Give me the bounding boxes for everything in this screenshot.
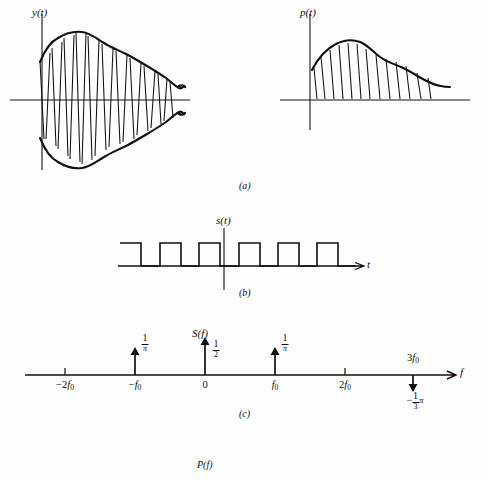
panel-caption-c: (c) — [239, 408, 250, 419]
amplitude-label-zero: 1 2 — [213, 339, 220, 359]
S-of-f-axis-label: S(f) — [192, 327, 208, 339]
tick-label-2f0: 2f0 — [339, 379, 351, 392]
plot-y-of-t — [10, 14, 190, 170]
amplitude-label-f0: 1 π — [282, 333, 289, 353]
amplitude-label-3f0: − 1 3 π — [406, 391, 423, 411]
figure-root: y(t) p(t) s(t) t S(f) f (a) (b) (c) −2f0… — [0, 0, 486, 482]
S-of-f-impulse-neg-f0 — [131, 347, 140, 375]
S-of-f-f-axis-label: f — [460, 366, 463, 378]
bottom-figure-label: P(f) — [197, 459, 213, 470]
panel-caption-b: (b) — [239, 287, 251, 298]
plot-S-of-f — [25, 337, 456, 392]
s-of-t-pulse-train — [120, 243, 356, 266]
S-of-f-impulse-f0 — [271, 347, 280, 375]
y-of-t-axis-label: y(t) — [32, 6, 47, 18]
panel-caption-a: (a) — [239, 180, 251, 191]
tick-label-3f0: 3f0 — [407, 352, 419, 365]
tick-label-neg-f0: −f0 — [129, 379, 142, 392]
tick-label-f0: f0 — [272, 379, 279, 392]
y-of-t-lower-envelope — [40, 112, 183, 169]
amplitude-label-neg-f0: 1 π — [142, 333, 149, 353]
plot-s-of-t — [118, 228, 364, 290]
s-of-t-axis-label: s(t) — [216, 214, 231, 226]
y-of-t-sample-lines — [40, 33, 173, 164]
S-of-f-impulse-zero — [201, 337, 210, 375]
p-of-t-axis-label: p(t) — [300, 6, 316, 18]
s-of-t-t-axis-label: t — [367, 258, 370, 270]
plot-p-of-t — [280, 14, 470, 130]
tick-label-zero: 0 — [202, 379, 207, 390]
tick-label-neg-2f0: −2f0 — [56, 379, 74, 392]
S-of-f-f-axis-arrow — [440, 371, 456, 379]
